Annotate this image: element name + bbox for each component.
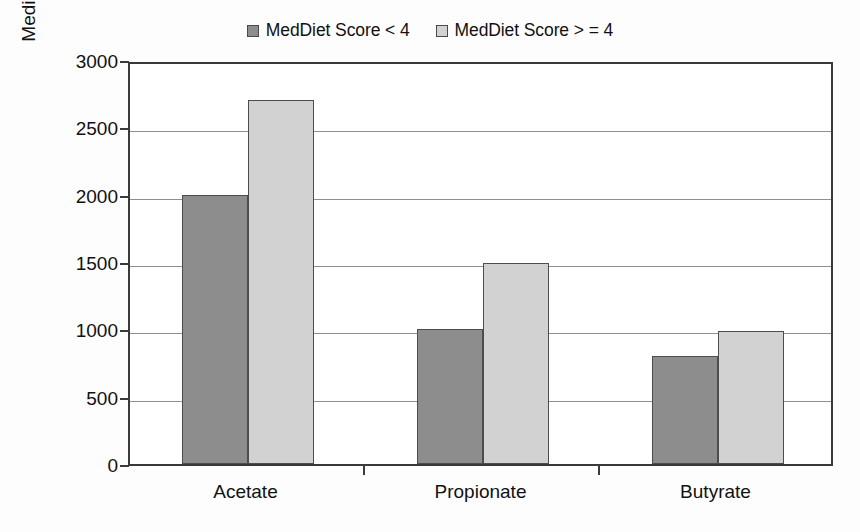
y-tick-label: 2000 — [0, 187, 118, 206]
gridline — [130, 131, 831, 132]
bar-chart: MedDiet Score < 4 MedDiet Score > = 4 Me… — [0, 0, 860, 532]
x-category-label-acetate: Acetate — [128, 480, 363, 504]
bar-butyrate-series-b — [718, 331, 784, 464]
y-tick-label: 1000 — [0, 321, 118, 340]
y-tick-label: 500 — [0, 389, 118, 408]
plot-area — [128, 62, 833, 466]
legend-label-series-a: MedDiet Score < 4 — [266, 20, 410, 41]
legend-entry-series-b: MedDiet Score > = 4 — [436, 20, 614, 41]
y-tick-label: 3000 — [0, 52, 118, 71]
y-tick-label: 1500 — [0, 254, 118, 273]
y-tick-label: 0 — [0, 456, 118, 475]
y-tick-label: 2500 — [0, 119, 118, 138]
chart-legend: MedDiet Score < 4 MedDiet Score > = 4 — [0, 20, 860, 41]
bar-propionate-series-b — [483, 263, 549, 464]
x-tick-mark — [598, 466, 600, 475]
bar-acetate-series-a — [182, 195, 248, 464]
plot-inner — [130, 64, 831, 464]
legend-swatch-series-b — [436, 25, 448, 37]
legend-swatch-series-a — [247, 25, 259, 37]
bar-butyrate-series-a — [652, 356, 718, 464]
x-tick-mark — [363, 466, 365, 475]
bar-acetate-series-b — [248, 100, 314, 464]
x-category-label-propionate: Propionate — [363, 480, 598, 504]
legend-label-series-b: MedDiet Score > = 4 — [455, 20, 614, 41]
bar-propionate-series-a — [417, 329, 483, 464]
legend-entry-series-a: MedDiet Score < 4 — [247, 20, 410, 41]
x-category-label-butyrate: Butyrate — [598, 480, 833, 504]
